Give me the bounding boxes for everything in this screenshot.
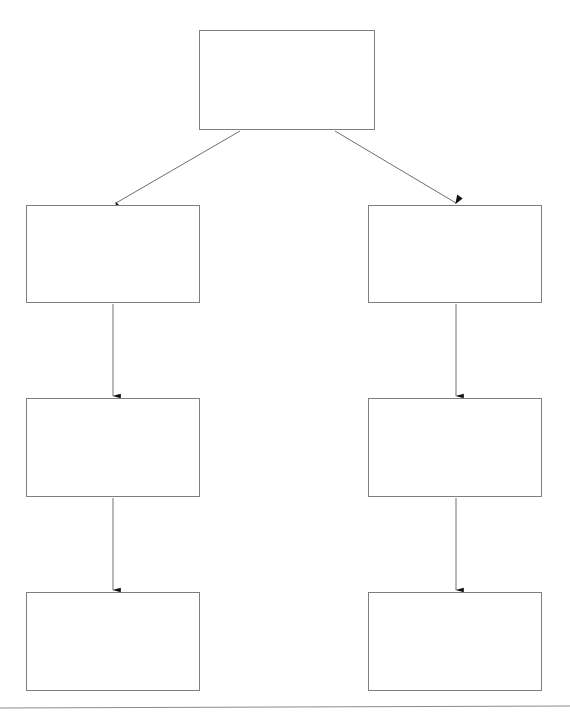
flowchart-node-root[interactable] bbox=[199, 30, 375, 130]
edge-root-left-1 bbox=[116, 131, 240, 203]
flowchart-node-right-1[interactable] bbox=[368, 205, 542, 303]
edge-root-right-1 bbox=[335, 131, 456, 203]
flowchart-canvas bbox=[0, 0, 570, 725]
flowchart-node-right-3[interactable] bbox=[368, 592, 542, 691]
flowchart-node-right-2[interactable] bbox=[368, 398, 542, 497]
flowchart-node-left-3[interactable] bbox=[26, 592, 200, 691]
flowchart-node-left-2[interactable] bbox=[26, 398, 200, 497]
footer-divider bbox=[0, 706, 570, 708]
flowchart-node-left-1[interactable] bbox=[26, 205, 200, 303]
